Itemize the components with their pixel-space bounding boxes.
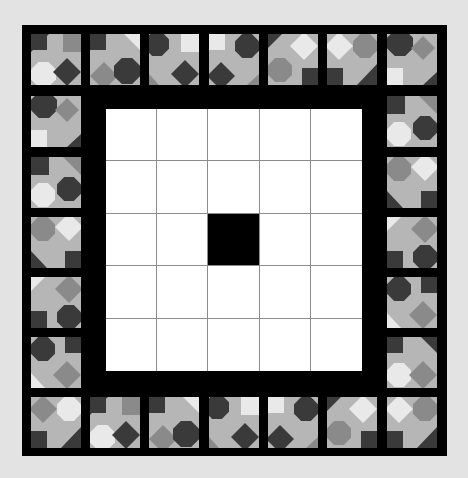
board-cell-0-2[interactable] [208,109,259,161]
tile-pattern-icon [90,34,140,85]
tile-pattern-icon [387,337,437,388]
border-tile-t3[interactable] [209,34,259,85]
border-tile-l4[interactable] [31,277,81,328]
tile-pattern-icon [209,397,259,448]
board-cell-0-0[interactable] [106,109,157,161]
tile-pattern-icon [31,397,81,448]
tile-pattern-icon [90,397,140,448]
tile-pattern-icon [209,34,259,85]
tile-pattern-icon [31,337,81,388]
border-tile-t2[interactable] [149,34,199,85]
board-cell-0-1[interactable] [157,109,208,161]
board-cell-4-0[interactable] [106,319,157,371]
border-tile-b2[interactable] [149,397,199,448]
tile-pattern-icon [387,157,437,208]
tile-pattern-icon [31,34,81,85]
tile-pattern-icon [327,397,377,448]
board-cell-3-1[interactable] [157,266,208,318]
border-tile-l3[interactable] [31,217,81,268]
border-tile-b5[interactable] [327,397,377,448]
border-tile-b0[interactable] [31,397,81,448]
border-tile-l2[interactable] [31,157,81,208]
border-tile-t4[interactable] [268,34,318,85]
board-cell-2-1[interactable] [157,214,208,266]
game-board [106,109,362,371]
border-tile-l5[interactable] [31,337,81,388]
border-tile-b3[interactable] [209,397,259,448]
tile-pattern-icon [31,157,81,208]
board-cell-4-3[interactable] [260,319,311,371]
board-cell-3-0[interactable] [106,266,157,318]
board-cell-4-2[interactable] [208,319,259,371]
board-cell-1-3[interactable] [260,161,311,213]
border-tile-b1[interactable] [90,397,140,448]
board-cell-1-4[interactable] [311,161,362,213]
border-tile-r4[interactable] [387,277,437,328]
border-tile-t0[interactable] [31,34,81,85]
tile-pattern-icon [387,96,437,147]
board-cell-1-1[interactable] [157,161,208,213]
tile-pattern-icon [31,277,81,328]
tile-pattern-icon [268,397,318,448]
board-cell-2-0[interactable] [106,214,157,266]
tile-pattern-icon [387,34,437,85]
border-tile-r1[interactable] [387,96,437,147]
tile-pattern-icon [327,34,377,85]
board-cell-4-1[interactable] [157,319,208,371]
tile-pattern-icon [268,34,318,85]
tile-pattern-icon [149,34,199,85]
tile-pattern-icon [31,96,81,147]
border-tile-t6[interactable] [387,34,437,85]
border-tile-b6[interactable] [387,397,437,448]
border-tile-t5[interactable] [327,34,377,85]
board-cell-1-0[interactable] [106,161,157,213]
board-cell-0-4[interactable] [311,109,362,161]
board-cell-3-4[interactable] [311,266,362,318]
tile-pattern-icon [387,217,437,268]
board-cell-4-4[interactable] [311,319,362,371]
clipped-caption [0,0,468,5]
border-tile-r2[interactable] [387,157,437,208]
board-cell-1-2[interactable] [208,161,259,213]
tile-pattern-icon [31,217,81,268]
board-cell-3-3[interactable] [260,266,311,318]
tile-pattern-icon [149,397,199,448]
border-tile-t1[interactable] [90,34,140,85]
tile-pattern-icon [387,277,437,328]
tile-pattern-icon [387,397,437,448]
border-tile-r5[interactable] [387,337,437,388]
board-cell-0-3[interactable] [260,109,311,161]
board-cell-2-2[interactable] [208,214,259,266]
board-cell-3-2[interactable] [208,266,259,318]
border-tile-l1[interactable] [31,96,81,147]
border-tile-b4[interactable] [268,397,318,448]
board-cell-2-4[interactable] [311,214,362,266]
border-tile-r3[interactable] [387,217,437,268]
board-cell-2-3[interactable] [260,214,311,266]
